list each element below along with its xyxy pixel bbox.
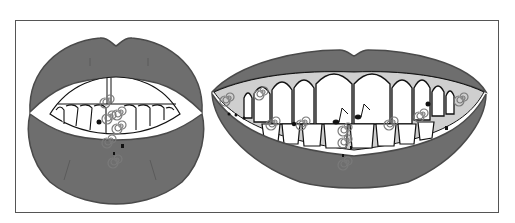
dot-icon <box>292 122 296 126</box>
illustration <box>0 0 515 223</box>
dot-icon <box>121 144 124 148</box>
dot-icon <box>426 102 431 107</box>
dot-icon <box>97 120 102 125</box>
left-mouth <box>28 38 203 204</box>
dot-icon <box>445 126 448 130</box>
right-mouth <box>212 50 486 188</box>
